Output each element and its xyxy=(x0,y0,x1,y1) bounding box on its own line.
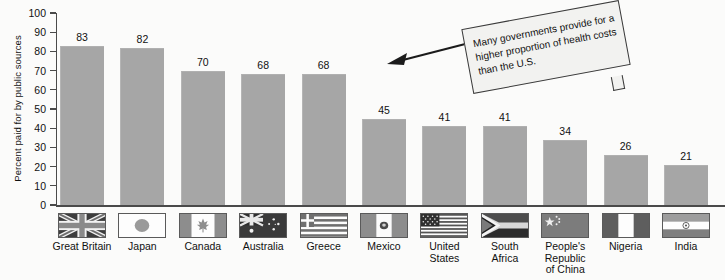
y-axis-tick xyxy=(50,128,56,129)
bar xyxy=(664,165,708,205)
flag-india-icon xyxy=(662,213,710,238)
y-axis-tick-label: 30 xyxy=(20,141,46,153)
bar-value-label: 45 xyxy=(362,104,406,116)
y-axis-tick-label: 50 xyxy=(20,103,46,115)
y-axis-tick-label: 90 xyxy=(20,26,46,38)
y-axis-tick-label: 40 xyxy=(20,122,46,134)
bar xyxy=(60,46,104,205)
callout-tail xyxy=(611,75,625,91)
bar-value-label: 26 xyxy=(604,140,648,152)
y-axis-tick-label: 20 xyxy=(20,161,46,173)
flag-greece-icon xyxy=(300,213,348,238)
bar xyxy=(241,74,285,205)
flag-nigeria-icon xyxy=(602,213,650,238)
bar-value-label: 41 xyxy=(422,111,466,123)
bar-value-label: 83 xyxy=(60,31,104,43)
category-label-line: India xyxy=(650,241,722,253)
y-axis-tick xyxy=(50,185,56,186)
bar xyxy=(302,74,346,205)
flag-japan-icon xyxy=(118,213,166,238)
bar-value-label: 68 xyxy=(241,59,285,71)
bar-value-label: 34 xyxy=(543,125,587,137)
flag-canada-icon xyxy=(179,213,227,238)
y-axis-tick-label: 10 xyxy=(20,180,46,192)
y-axis-tick xyxy=(50,89,56,90)
y-axis-tick xyxy=(50,70,56,71)
bar xyxy=(181,71,225,205)
y-axis-tick xyxy=(50,108,56,109)
y-axis-tick-label: 100 xyxy=(20,7,46,19)
bar-value-label: 21 xyxy=(664,150,708,162)
y-axis-tick xyxy=(50,147,56,148)
bar xyxy=(422,126,466,205)
y-axis-tick-label: 60 xyxy=(20,84,46,96)
bar-chart: Percent paid for by public sources 10090… xyxy=(0,0,725,280)
bar xyxy=(362,119,406,205)
flag-united-states-icon xyxy=(420,213,468,238)
bar-value-label: 70 xyxy=(181,56,225,68)
bar xyxy=(120,48,164,205)
y-axis-tick xyxy=(50,12,56,13)
y-axis-tick-label: 0 xyxy=(20,199,46,211)
bar-value-label: 68 xyxy=(302,59,346,71)
y-axis-tick-label: 70 xyxy=(20,65,46,77)
flag-china-icon xyxy=(541,213,589,238)
bar-value-label: 41 xyxy=(483,111,527,123)
y-axis-tick-label: 80 xyxy=(20,45,46,57)
y-axis-tick xyxy=(50,51,56,52)
bar xyxy=(483,126,527,205)
bar xyxy=(604,155,648,205)
y-axis-tick xyxy=(50,32,56,33)
category-label-line: of China xyxy=(529,264,601,276)
flag-south-africa-icon xyxy=(481,213,529,238)
flag-mexico-icon xyxy=(360,213,408,238)
bar xyxy=(543,140,587,205)
category-label: India xyxy=(650,241,722,253)
left-arrow-icon xyxy=(385,36,475,72)
y-axis-tick xyxy=(50,166,56,167)
bar-value-label: 82 xyxy=(120,33,164,45)
flag-united-kingdom-icon xyxy=(58,213,106,238)
flag-australia-icon xyxy=(239,213,287,238)
